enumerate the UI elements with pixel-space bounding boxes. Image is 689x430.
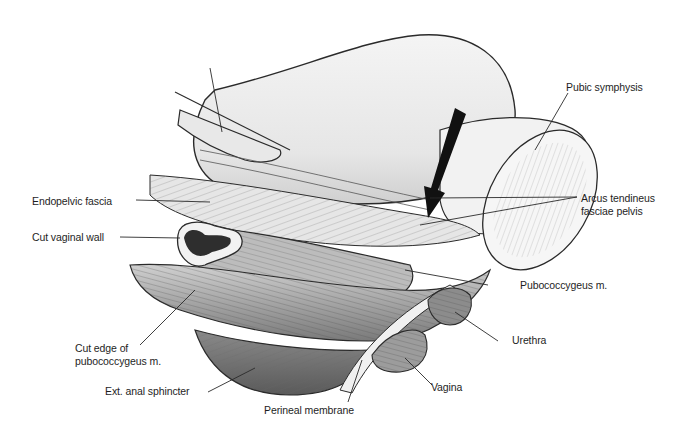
label-arcus-tendineus-line1: Arcus tendineus: [581, 192, 655, 204]
label-cut-edge-line1: Cut edge of: [75, 342, 128, 354]
label-cut-vaginal-wall: Cut vaginal wall: [32, 231, 104, 243]
label-vagina: Vagina: [431, 381, 462, 393]
label-cut-edge-line2: pubococcygeus m.: [75, 355, 161, 367]
label-perineal-membrane: Perineal membrane: [264, 404, 354, 416]
label-pubic-symphysis: Pubic symphysis: [566, 81, 643, 93]
label-endopelvic-fascia: Endopelvic fascia: [32, 195, 112, 207]
label-urethra: Urethra: [512, 334, 546, 346]
label-pubococcygeus: Pubococcygeus m.: [520, 279, 607, 291]
anatomy-figure: Pubic symphysis Endopelvic fascia Arcus …: [0, 0, 689, 430]
label-ext-anal-sphincter: Ext. anal sphincter: [105, 385, 189, 397]
label-arcus-tendineus-line2: fasciae pelvis: [581, 205, 643, 217]
